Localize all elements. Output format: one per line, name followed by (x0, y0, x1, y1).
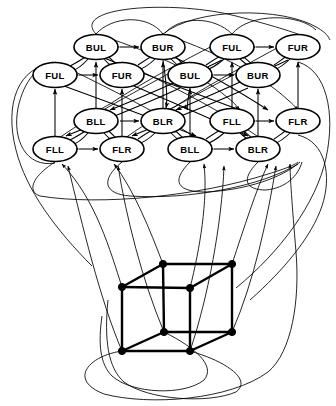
cube-vertex-bottom-back-left (160, 328, 167, 335)
graph-node-group: BULBURFULFURFULFURBULBURBLLBLRFLLFLRFLLF… (33, 35, 320, 162)
cube-vertex-bottom-back-right (228, 328, 235, 335)
graph-node-n4[interactable]: FUL (33, 63, 77, 88)
node-label: FUL (45, 70, 65, 81)
node-label: FUL (222, 42, 242, 53)
node-label: BUR (247, 70, 269, 81)
graph-node-n6[interactable]: BUL (168, 63, 212, 88)
lower-feedback-edges (33, 162, 302, 200)
graph-node-n14[interactable]: BLL (168, 137, 212, 162)
graph-node-n7[interactable]: BUR (236, 63, 280, 88)
cube-wireframe (122, 264, 232, 351)
diagram-canvas: BULBURFULFURFULFURBULBURBLLBLRFLLFLRFLLF… (0, 0, 336, 406)
node-label: FLR (288, 116, 308, 127)
node-label: FUR (112, 70, 133, 81)
cube-graph-figure: BULBURFULFURFULFURBULBURBLLBLRFLLFLRFLLF… (0, 0, 336, 406)
graph-node-n3[interactable]: FUR (276, 35, 320, 60)
node-label: BLL (180, 144, 200, 155)
cube-vertex-bottom-front-left (118, 347, 125, 354)
graph-node-n12[interactable]: FLL (33, 137, 77, 162)
cube-vertex-bottom-front-right (186, 347, 193, 354)
graph-node-n0[interactable]: BUL (74, 35, 118, 60)
cube-vertex-group (118, 260, 235, 354)
graph-node-n8[interactable]: BLL (74, 109, 118, 134)
graph-node-n1[interactable]: BUR (141, 35, 185, 60)
graph-node-n11[interactable]: FLR (276, 109, 320, 134)
node-label: BUL (180, 70, 201, 81)
graph-node-n15[interactable]: BLR (236, 137, 280, 162)
node-label: BLL (86, 116, 106, 127)
graph-node-n5[interactable]: FUR (100, 63, 144, 88)
node-label: FLL (46, 144, 65, 155)
graph-node-n2[interactable]: FUL (210, 35, 254, 60)
graph-node-n9[interactable]: BLR (141, 109, 185, 134)
node-label: BUR (152, 42, 174, 53)
cube-vertex-top-front-right (186, 284, 193, 291)
cube-to-graph-edges (62, 164, 297, 400)
node-label: FUR (288, 42, 309, 53)
node-label: BUL (86, 42, 107, 53)
cube-vertex-top-front-left (118, 283, 125, 290)
graph-node-n13[interactable]: FLR (100, 137, 144, 162)
cube-vertex-top-back-left (159, 260, 166, 267)
cube-vertex-top-back-right (228, 260, 235, 267)
node-label: BLR (248, 144, 269, 155)
graph-node-n10[interactable]: FLL (210, 109, 254, 134)
node-label: BLR (153, 116, 174, 127)
node-label: FLR (112, 144, 132, 155)
node-label: FLL (223, 116, 242, 127)
